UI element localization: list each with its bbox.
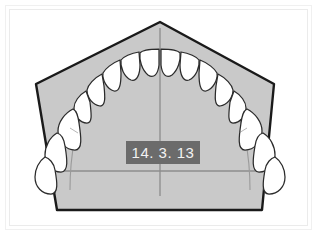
dental-arch-diagram bbox=[0, 0, 317, 235]
date-stamp: 14. 3. 13 bbox=[126, 141, 200, 164]
figure-root: 14. 3. 13 bbox=[0, 0, 317, 235]
